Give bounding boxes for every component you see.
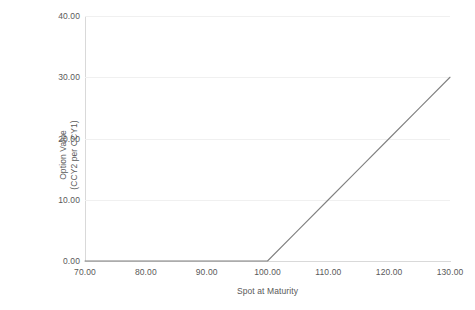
option-payoff-chart: Option Value (CCY2 per CCY1) 0.0010.0020… <box>0 0 475 310</box>
y-axis-tick-labels: 0.0010.0020.0030.0040.00 <box>34 16 80 261</box>
x-axis-tick-labels: 70.0080.0090.00100.00110.00120.00130.00 <box>85 267 450 281</box>
y-tick-label-20: 20.00 <box>36 134 80 144</box>
y-tick-label-10: 10.00 <box>36 195 80 205</box>
x-axis-title: Spot at Maturity <box>85 286 450 296</box>
x-tick-label-90: 90.00 <box>177 267 237 277</box>
x-tick-label-130: 130.00 <box>420 267 475 277</box>
x-tick-label-110: 110.00 <box>298 267 358 277</box>
series-line-option-value <box>85 16 450 261</box>
x-tick-label-70: 70.00 <box>55 267 115 277</box>
x-tick-label-80: 80.00 <box>116 267 176 277</box>
plot-area <box>85 16 450 261</box>
y-tick-label-40: 40.00 <box>36 11 80 21</box>
x-tick-label-100: 100.00 <box>238 267 298 277</box>
x-tick-label-120: 120.00 <box>359 267 419 277</box>
y-tick-label-30: 30.00 <box>36 72 80 82</box>
y-tick-label-0: 0.00 <box>36 256 80 266</box>
